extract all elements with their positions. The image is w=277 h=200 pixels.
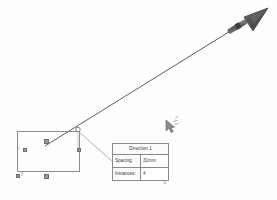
- spacing-value[interactable]: 31mm: [141, 155, 168, 167]
- mouse-cursor: [166, 116, 179, 133]
- callout-row-instances[interactable]: Instances: 4: [113, 168, 168, 180]
- constraint-glyph-right-mid[interactable]: [77, 148, 81, 152]
- instances-value[interactable]: 4: [141, 168, 168, 180]
- instances-label: Instances:: [113, 168, 141, 180]
- arrow-shaft-collar: [236, 25, 240, 27]
- direction-callout[interactable]: Direction 1 Spacing: 31mm Instances: 4: [112, 143, 169, 181]
- direction-line[interactable]: [45, 25, 240, 146]
- callout-leader-line: [78, 131, 112, 161]
- spacing-label: Spacing:: [113, 155, 141, 167]
- callout-title: Direction 1: [113, 144, 168, 155]
- constraint-glyph-left-mid[interactable]: [23, 148, 27, 152]
- cad-canvas[interactable]: ˄ Direction 1 Spacing: 31mm Instances: 4: [0, 0, 277, 200]
- constraint-glyph-bottom-mid[interactable]: [44, 174, 49, 179]
- constraint-glyph-top-mid[interactable]: [44, 139, 49, 144]
- callout-row-spacing[interactable]: Spacing: 31mm: [113, 155, 168, 168]
- constraint-glyph-bottom-left[interactable]: [16, 174, 20, 178]
